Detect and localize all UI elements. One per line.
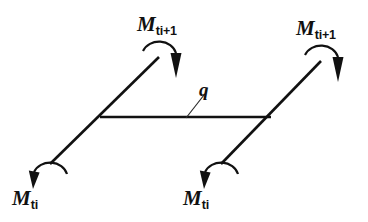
- moment-symbol: M: [12, 186, 31, 210]
- moment-symbol: M: [183, 186, 202, 210]
- moment-symbol: M: [296, 16, 315, 40]
- moment-arrowhead-top-left: [171, 53, 182, 78]
- label-distributed-load: q: [199, 80, 209, 99]
- moment-subscript: ti+1: [156, 24, 177, 38]
- moment-arrow-bottom-right: [200, 163, 238, 189]
- moment-subscript: ti: [202, 198, 209, 212]
- label-moment-bottom-right: Mti: [183, 188, 209, 209]
- label-moment-bottom-left: Mti: [12, 188, 38, 209]
- torsion-moment-figure: Mti+1 Mti+1 Mti Mti q: [0, 0, 368, 222]
- left-diagonal-member: [50, 57, 159, 164]
- label-moment-top-right: Mti+1: [296, 18, 336, 39]
- moment-arc-top-right: [305, 46, 338, 57]
- right-diagonal-member: [221, 61, 321, 164]
- moment-arc-top-left: [143, 42, 176, 53]
- moment-arrow-top-right: [305, 46, 344, 82]
- moment-arrowhead-top-right: [333, 57, 344, 82]
- label-moment-top-left: Mti+1: [137, 14, 177, 35]
- moment-symbol: M: [137, 12, 156, 36]
- structural-members: [50, 57, 321, 164]
- moment-subscript: ti: [31, 198, 38, 212]
- moment-arrow-bottom-left: [29, 163, 67, 189]
- moment-subscript: ti+1: [315, 28, 336, 42]
- moment-arrow-top-left: [143, 42, 182, 78]
